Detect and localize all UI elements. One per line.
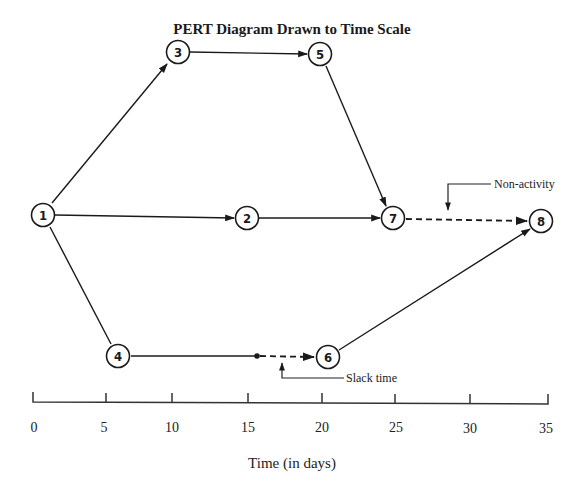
axis-title: Time (in days) [248, 455, 336, 472]
tick-label-0: 0 [31, 420, 38, 435]
tick-label-35: 35 [539, 421, 553, 436]
slack-time-label: Slack time [346, 371, 397, 385]
time-axis: 0 5 10 15 20 25 30 35 Time (in days) [31, 392, 554, 472]
tick-label-10: 10 [165, 420, 179, 435]
edges [50, 52, 530, 359]
tick-label-30: 30 [463, 421, 477, 436]
slack-time-callout: Slack time [282, 363, 397, 385]
svg-text:7: 7 [389, 211, 397, 226]
edge-slack-6 [260, 356, 314, 357]
tick-label-15: 15 [241, 420, 255, 435]
node-2: 2 [236, 207, 259, 230]
svg-text:3: 3 [174, 45, 182, 60]
node-1: 1 [32, 204, 55, 227]
node-4: 4 [107, 345, 130, 368]
node-5: 5 [309, 43, 332, 66]
tick-label-25: 25 [389, 420, 403, 435]
tick-label-20: 20 [315, 420, 329, 435]
non-activity-pointer [448, 184, 491, 210]
svg-text:4: 4 [114, 349, 122, 364]
diagram-title: PERT Diagram Drawn to Time Scale [173, 21, 411, 37]
svg-text:6: 6 [324, 350, 332, 365]
pert-diagram: PERT Diagram Drawn to Time Scale Non-act… [0, 0, 584, 493]
edge-1-4 [50, 227, 111, 344]
slack-start-dot [254, 353, 260, 359]
tick-label-5: 5 [101, 420, 108, 435]
svg-text:5: 5 [316, 47, 324, 62]
node-8: 8 [530, 210, 553, 233]
svg-text:1: 1 [39, 208, 47, 223]
svg-text:2: 2 [243, 211, 251, 226]
edge-7-8-non-activity [406, 219, 527, 221]
edge-1-2 [55, 215, 234, 218]
node-7: 7 [382, 207, 405, 230]
edge-5-7 [326, 66, 386, 206]
edge-3-5 [190, 52, 307, 54]
edge-6-8 [339, 229, 530, 350]
node-3: 3 [167, 41, 190, 64]
non-activity-label: Non-activity [494, 177, 555, 191]
node-6: 6 [317, 346, 340, 369]
edge-1-3 [52, 64, 167, 203]
non-activity-callout: Non-activity [448, 177, 555, 210]
svg-text:8: 8 [537, 214, 545, 229]
